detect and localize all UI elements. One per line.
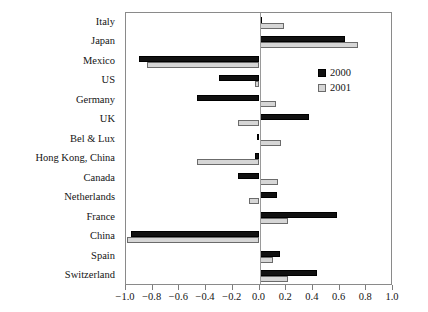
axis-tick — [125, 285, 126, 290]
category-label: UK — [100, 113, 115, 124]
category-label: China — [90, 230, 115, 241]
bar-2001-bel-lux — [260, 140, 281, 146]
value-axis: −1.0−0.8−0.6−0.4−0.20.00.20.40.60.81.0 — [125, 285, 392, 311]
category-label: Japan — [91, 35, 115, 46]
black-square-icon — [318, 69, 326, 77]
plot-area — [125, 12, 392, 285]
bar-2001-netherlands — [249, 198, 260, 204]
category-label: Bel & Lux — [70, 133, 115, 144]
axis-tick — [392, 285, 393, 290]
category-axis-labels: ItalyJapanMexicoUSGermanyUKBel & LuxHong… — [0, 12, 120, 285]
bar-2000-netherlands — [260, 192, 277, 198]
plot-bars-layer — [126, 13, 391, 284]
axis-tick — [232, 285, 233, 290]
zero-reference-line — [260, 13, 261, 284]
axis-tick-label: 0.2 — [279, 291, 292, 303]
category-label: Germany — [76, 94, 115, 105]
category-label: Hong Kong, China — [35, 152, 115, 163]
category-label: Italy — [96, 16, 115, 27]
category-label: US — [102, 74, 115, 85]
legend-label: 2000 — [330, 67, 351, 78]
gray-square-icon — [318, 84, 326, 92]
legend-label: 2001 — [330, 82, 351, 93]
axis-tick — [178, 285, 179, 290]
legend-item: 2001 — [318, 81, 384, 94]
axis-tick-label: 0.8 — [359, 291, 372, 303]
bar-2001-france — [260, 218, 288, 224]
axis-tick-label: 1.0 — [385, 291, 398, 303]
axis-tick-label: −0.8 — [142, 291, 161, 303]
category-label: Netherlands — [64, 191, 115, 202]
bar-2000-canada — [238, 173, 259, 179]
axis-tick-label: −1.0 — [115, 291, 134, 303]
axis-tick-label: −0.2 — [222, 291, 241, 303]
bar-2000-us — [219, 75, 259, 81]
axis-tick — [259, 285, 260, 290]
bar-2001-switzerland — [260, 276, 288, 282]
bar-2001-japan — [260, 42, 359, 48]
bar-2000-uk — [260, 114, 309, 120]
axis-tick — [365, 285, 366, 290]
bar-2001-uk — [238, 120, 259, 126]
bar-2001-germany — [260, 101, 276, 107]
axis-tick — [339, 285, 340, 290]
axis-tick-label: 0.0 — [252, 291, 265, 303]
category-label: Switzerland — [65, 269, 115, 280]
bar-2001-mexico — [147, 62, 259, 68]
bar-2001-spain — [260, 257, 273, 263]
axis-tick-label: 0.6 — [332, 291, 345, 303]
category-label: France — [86, 211, 115, 222]
axis-tick-label: 0.4 — [305, 291, 318, 303]
category-label: Canada — [84, 172, 116, 183]
legend-item: 2000 — [318, 66, 384, 79]
category-label: Mexico — [83, 55, 115, 66]
category-label: Spain — [91, 250, 115, 261]
axis-tick — [205, 285, 206, 290]
bar-2001-hong-kong-china — [197, 159, 260, 165]
bar-2000-germany — [197, 95, 260, 101]
bar-chart: ItalyJapanMexicoUSGermanyUKBel & LuxHong… — [0, 0, 428, 312]
bar-2001-china — [127, 237, 259, 243]
axis-tick-label: −0.6 — [169, 291, 188, 303]
bar-2001-canada — [260, 179, 279, 185]
axis-tick — [152, 285, 153, 290]
axis-tick — [285, 285, 286, 290]
bar-2001-italy — [260, 23, 284, 29]
axis-tick-label: −0.4 — [196, 291, 215, 303]
axis-tick — [312, 285, 313, 290]
chart-legend: 20002001 — [318, 66, 384, 96]
